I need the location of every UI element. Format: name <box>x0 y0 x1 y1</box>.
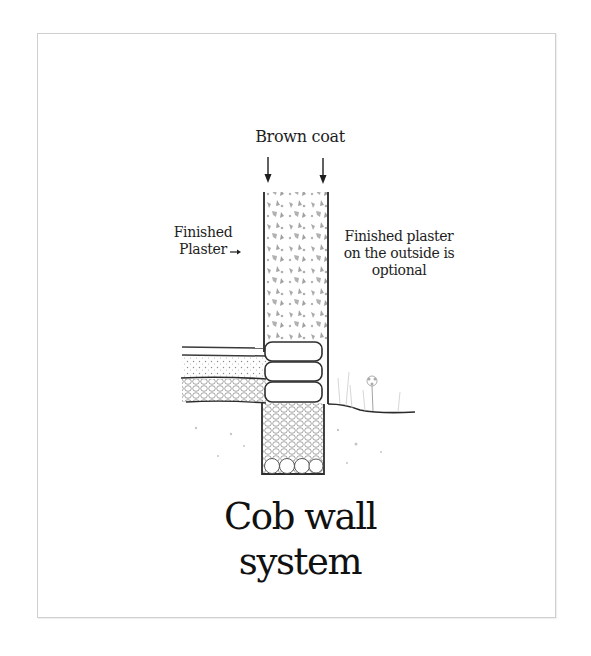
outside-plaster-line-1: Finished plaster <box>336 228 462 245</box>
brown-coat-label: Brown coat <box>250 127 350 147</box>
stem-wall-stones <box>265 342 322 402</box>
finished-plaster-label: Finished Plaster <box>163 224 243 258</box>
down-arrow-icon <box>320 158 327 184</box>
interior-floor <box>181 347 266 403</box>
outside-plaster-line-3: optional <box>336 262 462 279</box>
rubble-trench <box>262 403 324 474</box>
diagram-title: Cob wall system <box>170 494 430 584</box>
exterior-ground <box>328 372 415 413</box>
outside-plaster-line-2: on the outside is <box>336 245 462 262</box>
finished-plaster-line-2: Plaster <box>163 241 243 258</box>
down-arrow-icon <box>265 157 272 183</box>
outside-plaster-label: Finished plaster on the outside is optio… <box>336 228 462 279</box>
plant-icon <box>367 376 377 411</box>
finished-plaster-line-1: Finished <box>163 224 243 241</box>
